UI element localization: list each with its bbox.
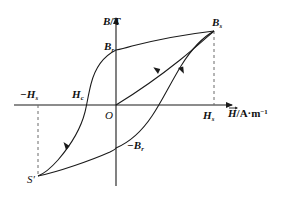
initial-magnetization-curve-arrow-icon (152, 65, 161, 74)
saturation-field-positive-label: Hs (203, 110, 214, 122)
y-axis-label: B/T (103, 16, 121, 27)
saturation-field-negative-subscript: s (35, 94, 38, 101)
saturation-negative-label: S′ (27, 174, 35, 185)
x-axis-quantity: H (228, 107, 237, 119)
remanence-positive-subscript: r (112, 46, 115, 53)
ascending-branch-arrow-icon (178, 65, 187, 75)
descending-branch-curve (38, 31, 214, 176)
saturation-field-negative-label: −Hs (20, 89, 38, 101)
y-axis-unit: T (113, 15, 120, 27)
saturation-field-negative-symbol: −H (20, 88, 35, 100)
saturation-field-positive-symbol: H (203, 109, 212, 121)
saturation-field-positive-subscript: s (212, 115, 215, 122)
hysteresis-loop-figure: B/T Br Bs −Br Hc −Hs Hs H/A·m−1 O S′ (0, 0, 281, 197)
x-axis-unit: A·m (240, 107, 261, 119)
coercivity-label: Hc (72, 89, 84, 101)
remanence-positive-label: Br (104, 41, 114, 53)
ascending-branch-curve (38, 31, 214, 176)
x-axis-label: H/A·m−1 (228, 108, 268, 119)
remanence-negative-subscript: r (141, 145, 144, 152)
saturation-positive-label: Bs (212, 17, 222, 29)
coercivity-symbol: H (72, 88, 81, 100)
saturation-positive-symbol: B (212, 16, 219, 28)
coercivity-subscript: c (81, 94, 84, 101)
remanence-negative-symbol: −B (127, 139, 141, 151)
origin-label: O (105, 110, 113, 121)
saturation-positive-subscript: s (220, 22, 223, 29)
x-axis-unit-exponent: −1 (260, 108, 267, 115)
remanence-negative-label: −Br (127, 140, 144, 152)
remanence-positive-symbol: B (104, 40, 111, 52)
hysteresis-plot-canvas (0, 0, 281, 197)
